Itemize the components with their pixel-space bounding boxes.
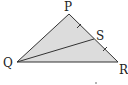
triangle-diagram: P Q R S — [0, 0, 128, 85]
label-s: S — [96, 29, 104, 43]
label-q: Q — [3, 56, 13, 70]
label-r: R — [119, 63, 128, 77]
dot-mark — [95, 82, 97, 84]
label-p: P — [64, 0, 72, 14]
